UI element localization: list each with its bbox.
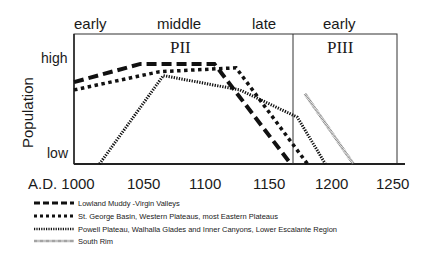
label-late-pii: late xyxy=(252,15,276,32)
label-early-pii: early xyxy=(74,15,107,32)
y-label-high: high xyxy=(41,50,67,66)
series-line-fine-dot xyxy=(100,76,326,164)
y-axis-title: Population xyxy=(19,77,36,148)
legend-label-southrim: South Rim xyxy=(78,237,113,246)
legend: Lowland Muddy -Virgin Valleys St. George… xyxy=(34,199,337,246)
period-pii: PII xyxy=(170,38,191,57)
series-layer xyxy=(74,64,353,164)
x-tick-1100: 1100 xyxy=(189,175,221,192)
period-piii: PIII xyxy=(327,38,354,57)
series-line-square-dot xyxy=(74,68,308,164)
legend-label-stgeorge: St. George Basin, Western Plateaus, most… xyxy=(78,212,278,221)
x-tick-1050: 1050 xyxy=(127,175,160,192)
x-tick-1250: 1250 xyxy=(376,175,409,192)
label-middle-pii: middle xyxy=(157,15,201,32)
x-tick-1000: A.D. 1000 xyxy=(28,175,95,192)
label-early-piii: early xyxy=(323,15,356,32)
series-line-hatched xyxy=(305,94,353,164)
x-tick-1200: 1200 xyxy=(315,175,348,192)
x-tick-1150: 1150 xyxy=(253,175,285,192)
legend-label-powell: Powell Plateau, Walhalla Glades and Inne… xyxy=(78,225,337,234)
population-chart: early middle late early PII PIII high lo… xyxy=(0,0,423,254)
y-label-low: low xyxy=(47,145,69,161)
legend-label-lowland: Lowland Muddy -Virgin Valleys xyxy=(78,199,180,208)
